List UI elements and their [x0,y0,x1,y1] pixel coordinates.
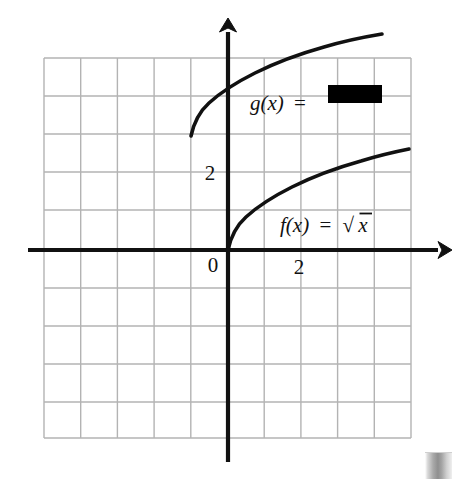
g-expression-redaction-box [328,85,382,103]
f-label-radical: √ [343,213,355,237]
x-axis-arrow-icon [438,242,452,259]
y-axis-tick-label-2: 2 [205,161,216,185]
f-label-prefix: f(x) [280,213,309,237]
f-label-equals: = [319,213,331,237]
g-label-prefix: g(x) [250,91,284,115]
g-function-label: g(x) = [250,91,306,115]
origin-label: 0 [208,253,219,277]
axes [28,18,452,462]
f-label-radicand: x [357,213,368,237]
g-label-equals: = [294,91,306,115]
f-function-label: f(x) = √ x [280,213,368,237]
x-axis-tick-label-2: 2 [294,255,305,279]
y-axis-arrow-icon [220,18,237,32]
